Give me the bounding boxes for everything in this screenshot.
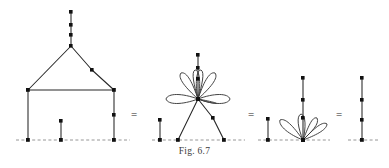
figure-container: = [0, 0, 389, 168]
graph-node [196, 77, 200, 81]
graph-node [360, 98, 364, 102]
graph-node [360, 76, 364, 80]
graph-node [176, 138, 180, 142]
edge [213, 118, 224, 140]
graph-node [301, 116, 305, 120]
equals-sign-1: = [131, 108, 137, 120]
graph-node [69, 23, 73, 27]
panel-house-graph [16, 10, 130, 142]
graph-node [26, 88, 30, 92]
edge [71, 46, 92, 70]
graph-node [211, 116, 215, 120]
graph-node [69, 33, 73, 37]
figure-caption: Fig. 6.7 [0, 146, 389, 156]
graph-node [112, 113, 116, 117]
panel-3-nodes [266, 76, 305, 142]
panel-3-edges [268, 78, 303, 140]
figure-svg: = [0, 0, 389, 168]
graph-node [69, 44, 73, 48]
petal-loop-icon [166, 95, 198, 104]
graph-node [301, 138, 305, 142]
graph-node [26, 138, 30, 142]
equals-sign-2: = [248, 108, 254, 120]
graph-node [158, 118, 162, 122]
graph-node [112, 88, 116, 92]
graph-node [266, 117, 270, 121]
graph-node [266, 138, 270, 142]
equals-sign-3: = [336, 108, 342, 120]
edge [92, 70, 114, 90]
panel-six-petal-flower-graph [152, 53, 245, 142]
graph-node [59, 119, 63, 123]
graph-node [112, 138, 116, 142]
graph-node [360, 118, 364, 122]
graph-node [196, 97, 200, 101]
panel-simple-path-graph [348, 76, 380, 142]
graph-node [301, 76, 305, 80]
edge [178, 99, 198, 140]
graph-node [222, 138, 226, 142]
panel-three-petal-chain-graph [258, 76, 330, 142]
panel-2-edges [160, 55, 224, 140]
graph-node [158, 138, 162, 142]
graph-node [196, 66, 200, 70]
panel-1-edges [28, 12, 114, 140]
graph-node [360, 138, 364, 142]
graph-node [69, 10, 73, 14]
graph-node [90, 68, 94, 72]
graph-node [196, 53, 200, 57]
graph-node [59, 138, 63, 142]
graph-node [301, 98, 305, 102]
edge [28, 46, 71, 90]
